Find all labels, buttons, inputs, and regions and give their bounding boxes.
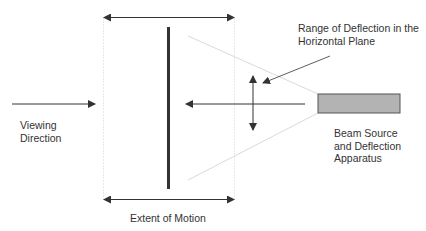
range-label-line2: Horizontal Plane (298, 35, 419, 48)
beam-label-line3: Apparatus (334, 152, 401, 165)
extent-of-motion-label: Extent of Motion (130, 212, 206, 225)
beam-label-line1: Beam Source (334, 127, 401, 140)
range-pointer-arrow (263, 56, 330, 83)
viewing-direction-label: Viewing Direction (20, 119, 61, 144)
viewing-label-line2: Direction (20, 132, 61, 145)
beam-label-line2: and Deflection (334, 140, 401, 153)
beam-source-label: Beam Source and Deflection Apparatus (334, 127, 401, 165)
range-label: Range of Deflection in the Horizontal Pl… (298, 22, 419, 47)
range-label-line1: Range of Deflection in the (298, 22, 419, 35)
beam-source-box (318, 94, 400, 113)
viewing-label-line1: Viewing (20, 119, 61, 132)
